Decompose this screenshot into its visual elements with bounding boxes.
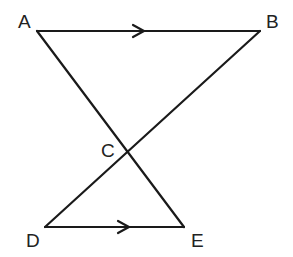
label-b: B — [266, 11, 279, 32]
label-e: E — [191, 230, 204, 251]
segment-bd — [45, 31, 260, 227]
geometry-diagram: A B C D E — [0, 0, 293, 257]
segment-ae — [37, 31, 184, 227]
label-d: D — [26, 230, 40, 251]
label-c: C — [101, 140, 115, 161]
label-a: A — [18, 11, 31, 32]
